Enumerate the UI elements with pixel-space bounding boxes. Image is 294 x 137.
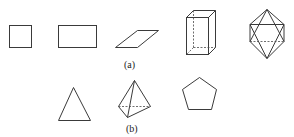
tetrahedron-shape xyxy=(119,81,151,118)
square-shape xyxy=(10,26,32,48)
rectangle-shape xyxy=(59,26,97,48)
shapes-figure: (a) (b) xyxy=(0,0,294,137)
row-b-label: (b) xyxy=(126,123,138,135)
pentagon-shape xyxy=(183,78,217,110)
rectangular-prism-shape xyxy=(187,11,216,55)
parallelogram-shape xyxy=(116,31,159,48)
triangle-shape xyxy=(59,88,91,121)
octahedron-shape xyxy=(250,10,284,59)
row-a-label: (a) xyxy=(124,59,135,71)
